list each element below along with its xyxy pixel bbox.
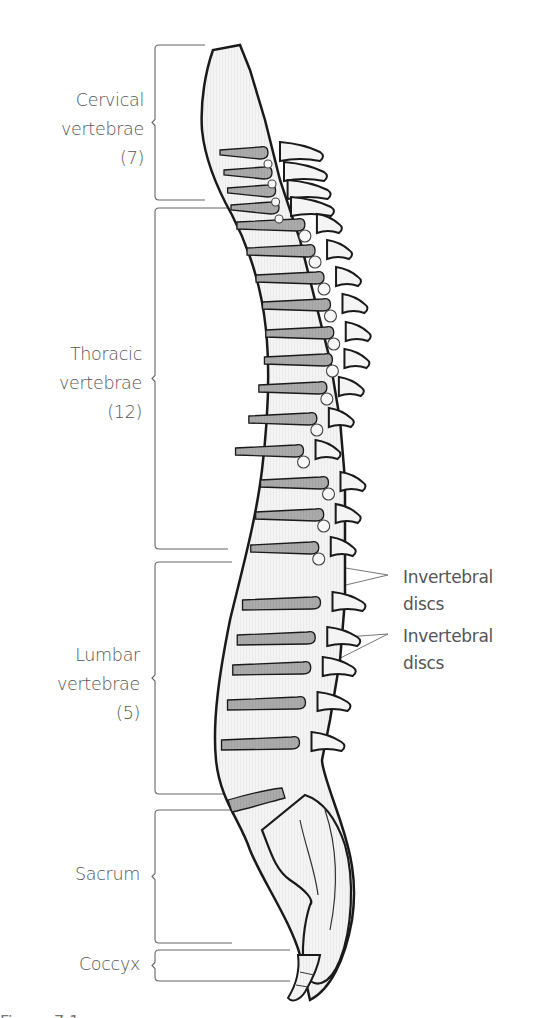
spinous-process [331, 537, 356, 556]
callout-discs-lower: Invertebral discs [403, 623, 493, 677]
callout-discs-upper: Invertebral discs [403, 564, 493, 618]
intervertebral-disc [249, 413, 317, 425]
foramen [298, 456, 310, 468]
foramen [264, 160, 272, 168]
bracket-cervical [152, 45, 205, 200]
foramen [328, 338, 340, 350]
foramen [318, 283, 330, 295]
callout-line: discs [403, 650, 493, 677]
intervertebral-disc [236, 445, 304, 457]
caption-text: Figure 7.1 [0, 1014, 535, 1018]
label-lumbar: Lumbar vertebrae (5) [57, 641, 140, 728]
foramen [313, 553, 325, 565]
bracket-coccyx [152, 950, 290, 981]
foramen [309, 256, 321, 268]
foramen [318, 520, 330, 532]
spinous-process [342, 294, 367, 313]
spinous-process [323, 657, 356, 676]
foramen [311, 424, 323, 436]
spinous-process [288, 180, 331, 199]
label-line: vertebrae [59, 369, 142, 398]
foramen [268, 180, 276, 188]
spinous-process [284, 162, 327, 181]
spinous-process [336, 267, 361, 286]
label-line: Coccyx [79, 950, 140, 979]
label-count: (7) [61, 144, 144, 173]
label-cervical: Cervical vertebrae (7) [61, 86, 144, 173]
label-line: Cervical [61, 86, 144, 115]
foramen [275, 215, 283, 223]
callout-line: Invertebral [403, 623, 493, 650]
spinous-process [327, 240, 352, 259]
spinous-process [336, 504, 361, 523]
callout-line: Invertebral [403, 564, 493, 591]
foramen [321, 393, 333, 405]
callout-line: discs [403, 591, 493, 618]
foramen [324, 310, 336, 322]
vertebral-column [202, 45, 371, 1000]
spinous-process [329, 408, 354, 427]
foramen [326, 365, 338, 377]
bracket-thoracic [152, 208, 228, 549]
spinous-process [333, 592, 366, 611]
spinous-process [344, 349, 369, 368]
spinous-process [317, 214, 342, 233]
label-count: (5) [57, 699, 140, 728]
label-count: (12) [59, 398, 142, 427]
label-thoracic: Thoracic vertebrae (12) [59, 340, 142, 427]
spinous-process [341, 472, 366, 491]
spine-diagram: Cervical vertebrae (7) Thoracic vertebra… [0, 0, 535, 1018]
label-line: vertebrae [61, 115, 144, 144]
label-line: Lumbar [57, 641, 140, 670]
figure-caption-fragment: Figure 7.1 [0, 1014, 535, 1018]
spinous-process [346, 322, 371, 341]
label-coccyx: Coccyx [79, 950, 140, 979]
spinous-process [339, 377, 364, 396]
spinous-process [318, 692, 351, 711]
foramen [299, 230, 311, 242]
label-line: Sacrum [75, 860, 140, 889]
foramen [272, 198, 280, 206]
spinous-process [327, 627, 360, 646]
foramen [323, 488, 335, 500]
label-line: Thoracic [59, 340, 142, 369]
spinous-process [280, 142, 323, 161]
spinous-process [312, 732, 345, 751]
bracket-sacrum [152, 810, 232, 943]
label-sacrum: Sacrum [75, 860, 140, 889]
label-line: vertebrae [57, 670, 140, 699]
